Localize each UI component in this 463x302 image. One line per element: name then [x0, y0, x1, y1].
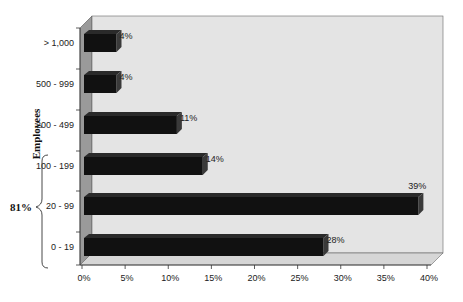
value-label: 4%: [120, 72, 133, 82]
y-axis-ticks: [76, 28, 80, 265]
x-tick-label: 10%: [161, 273, 179, 283]
value-label: 11%: [180, 113, 197, 123]
x-tick-label: 35%: [377, 273, 395, 283]
y-axis-title: Employees: [30, 108, 42, 159]
value-label: 28%: [327, 235, 345, 245]
value-label: 4%: [120, 31, 133, 41]
bar-chart: 0%5%10%15%20%25%30%35%40% > 1,000500 - 9…: [0, 0, 463, 302]
bar: [84, 71, 122, 93]
brace-annotation: [36, 155, 48, 268]
value-label: 14%: [206, 154, 224, 164]
bar: [84, 112, 182, 134]
value-label: 39%: [408, 181, 426, 191]
x-tick-label: 0%: [77, 273, 90, 283]
category-label: 20 - 99: [46, 201, 74, 211]
x-tick-label: 15%: [204, 273, 222, 283]
brace-label: 81%: [10, 201, 32, 213]
x-tick-label: 5%: [121, 273, 134, 283]
x-tick-label: 25%: [291, 273, 309, 283]
bar: [84, 234, 329, 256]
category-label: > 1,000: [44, 38, 74, 48]
category-label: 0 - 19: [51, 242, 74, 252]
category-label: 500 - 999: [36, 79, 74, 89]
chart-side-wall: [80, 16, 92, 265]
bar: [84, 30, 122, 52]
bar: [84, 153, 208, 175]
bar: [84, 193, 423, 215]
x-tick-label: 20%: [247, 273, 265, 283]
x-tick-label: 40%: [420, 273, 438, 283]
x-tick-label: 30%: [334, 273, 352, 283]
x-axis-ticks: 0%5%10%15%20%25%30%35%40%: [77, 265, 438, 283]
chart-back-wall: [92, 16, 443, 253]
